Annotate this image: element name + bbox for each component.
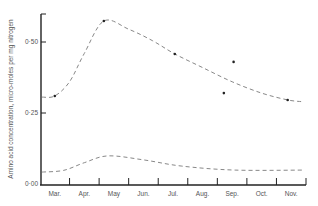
x-tick-label: Mar. [48,190,61,197]
amino-acid-chart: 0·000·250·50 Mar.Apr.MayJun.Jul.Aug.Sep.… [0,0,318,206]
x-ticks: Mar.Apr.MayJun.Jul.Aug.Sep.Oct.Nov. [48,178,297,198]
x-tick-label: Jul. [168,190,178,197]
y-ticks: 0·000·250·50 [25,38,46,187]
y-tick-label: 0·50 [25,38,38,45]
axes [40,14,306,185]
lower-curve [42,156,304,172]
data-point [173,53,176,56]
y-tick-label: 0·00 [25,180,38,187]
data-point [53,95,56,98]
x-tick-label: Nov. [285,190,298,197]
data-point [286,99,289,102]
series-layer [42,20,304,172]
upper-curve [42,20,301,102]
x-tick-label: Jun. [137,190,149,197]
data-point [232,61,235,64]
x-tick-label: Sep. [225,190,239,198]
y-axis-title: Amino acid concentration, micro-moles pe… [7,19,15,179]
x-tick-label: Aug. [196,190,210,198]
y-tick-label: 0·25 [25,109,38,116]
x-tick-label: May [108,190,121,198]
x-tick-label: Apr. [79,190,91,198]
data-point [223,92,226,95]
x-tick-label: Oct. [256,190,268,197]
data-point [103,20,106,23]
